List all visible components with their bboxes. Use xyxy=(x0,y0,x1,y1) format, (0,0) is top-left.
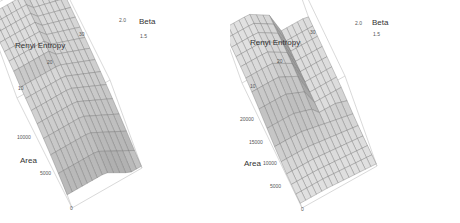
x-tick: 10000 xyxy=(17,134,31,140)
y-tick: 2.0 xyxy=(119,17,126,23)
z-axis-label: Renyi Entropy xyxy=(15,41,65,50)
z-tick: 30 xyxy=(310,29,316,35)
x-tick: 5000 xyxy=(270,183,281,189)
y-axis-label: Beta xyxy=(139,17,155,26)
y-axis-label: Beta xyxy=(372,18,388,27)
right-plot-canvas xyxy=(230,0,460,223)
right-surface-plot: Renyi Entropy Beta Area 10 20 30 1.5 2.0… xyxy=(230,0,460,223)
left-surface-plot: Renyi Entropy Beta Area 10 20 30 1.5 2.0… xyxy=(0,0,230,223)
left-plot-canvas xyxy=(0,0,230,223)
z-tick: 20 xyxy=(277,58,283,64)
y-tick: 1.5 xyxy=(373,31,380,37)
x-axis-label: Area xyxy=(20,156,37,165)
x-tick: 5000 xyxy=(40,170,51,176)
z-tick: 20 xyxy=(47,59,53,65)
x-tick: 0 xyxy=(301,206,304,212)
z-tick: 10 xyxy=(250,83,256,89)
surface-mesh xyxy=(0,0,141,195)
z-tick: 30 xyxy=(79,31,85,37)
x-axis-label: Area xyxy=(244,159,261,168)
y-tick: 2.0 xyxy=(355,20,362,26)
x-tick: 10000 xyxy=(263,160,277,166)
x-tick: 15000 xyxy=(249,139,263,145)
z-axis-label: Renyi Entropy xyxy=(250,38,300,47)
x-tick: 0 xyxy=(70,205,73,211)
x-tick: 20000 xyxy=(240,116,254,122)
y-tick: 1.5 xyxy=(140,33,147,39)
z-tick: 10 xyxy=(18,85,24,91)
